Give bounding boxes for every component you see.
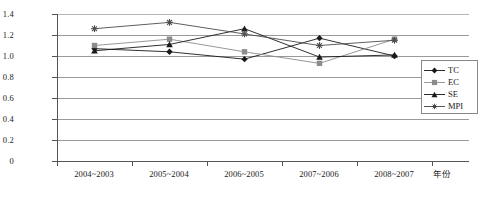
legend-label-tc: TC bbox=[445, 65, 459, 75]
legend-label-mpi: MPI bbox=[445, 101, 463, 111]
y-axis-label-0-8: 0.8 bbox=[0, 73, 14, 81]
y-tick-mark bbox=[52, 77, 57, 78]
x-axis-title: 年份 bbox=[433, 169, 451, 179]
y-axis-label-0-6: 0.6 bbox=[0, 94, 14, 102]
legend-item-mpi[interactable]: MPI bbox=[422, 100, 477, 112]
legend-item-se[interactable]: SE bbox=[422, 88, 477, 100]
diamond-marker-icon bbox=[424, 65, 445, 76]
y-tick-mark bbox=[52, 14, 57, 15]
gridline-1.4 bbox=[58, 14, 469, 15]
x-tick-mark bbox=[57, 162, 58, 166]
asterisk-marker-icon bbox=[424, 101, 445, 112]
gridline-0.4 bbox=[58, 119, 469, 120]
legend-item-ec[interactable]: EC bbox=[422, 76, 477, 88]
y-axis-label-1-2: 1.2 bbox=[0, 31, 14, 39]
legend: TC EC SE bbox=[421, 60, 478, 114]
square-marker-icon bbox=[424, 77, 445, 88]
y-tick-mark bbox=[52, 35, 57, 36]
plot-area bbox=[57, 14, 469, 162]
gridline-0.8 bbox=[58, 77, 469, 78]
y-axis-label-0: 0 bbox=[0, 157, 14, 165]
gridline-0.2 bbox=[58, 140, 469, 141]
x-axis-label-4: 2008~2007 bbox=[346, 169, 442, 179]
y-axis-label-1-0: 1.0 bbox=[0, 52, 14, 60]
x-tick-mark bbox=[207, 162, 208, 166]
gridline-1.0 bbox=[58, 56, 469, 57]
legend-item-tc[interactable]: TC bbox=[422, 64, 477, 76]
x-tick-mark bbox=[282, 162, 283, 166]
legend-label-se: SE bbox=[445, 89, 458, 99]
gridline-1.2 bbox=[58, 35, 469, 36]
y-axis-label-0-2: 0.2 bbox=[0, 136, 14, 144]
gridline-0.6 bbox=[58, 98, 469, 99]
legend-label-ec: EC bbox=[445, 77, 459, 87]
y-axis-label-1-4: 1.4 bbox=[0, 10, 14, 18]
x-tick-mark bbox=[357, 162, 358, 166]
line-chart: 1.4 1.2 1.0 0.8 0.6 0.4 0.2 0 2004~2003 … bbox=[0, 0, 488, 204]
x-tick-mark bbox=[432, 162, 433, 166]
x-tick-mark bbox=[132, 162, 133, 166]
triangle-marker-icon bbox=[424, 89, 445, 100]
y-axis-label-0-4: 0.4 bbox=[0, 115, 14, 123]
y-tick-mark bbox=[52, 98, 57, 99]
y-tick-mark bbox=[52, 56, 57, 57]
y-tick-mark bbox=[52, 119, 57, 120]
y-tick-mark bbox=[52, 140, 57, 141]
